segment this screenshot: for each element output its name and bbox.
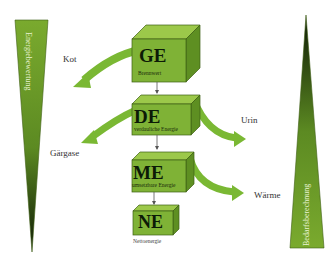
me-abbr: ME [133, 163, 164, 182]
ne-caption: Nettoenergie [133, 238, 161, 244]
arrow-waerme [190, 158, 244, 201]
loss-label-waerme: Wärme [254, 190, 280, 200]
de-abbr: DE [134, 107, 160, 126]
ge-abbr: GE [139, 46, 166, 65]
de-sub: verdauliche Energie [134, 126, 178, 132]
left-triangle-label: Energiebewertung [24, 32, 33, 91]
arrow-urin [194, 100, 246, 147]
ne-abbr: NE [138, 213, 163, 231]
loss-label-kot: Kot [63, 54, 77, 64]
arrow-kot [73, 50, 140, 88]
me-sub: umsetzbare Energie [132, 182, 175, 188]
ge-sub: Brennwert [138, 70, 161, 76]
arrow-gaergase [81, 110, 136, 144]
diagram-canvas [0, 0, 336, 266]
loss-label-gaergase: Gärgase [50, 148, 79, 158]
right-triangle-label: Bedarfsberechnung [302, 184, 311, 246]
loss-label-urin: Urin [241, 115, 258, 125]
